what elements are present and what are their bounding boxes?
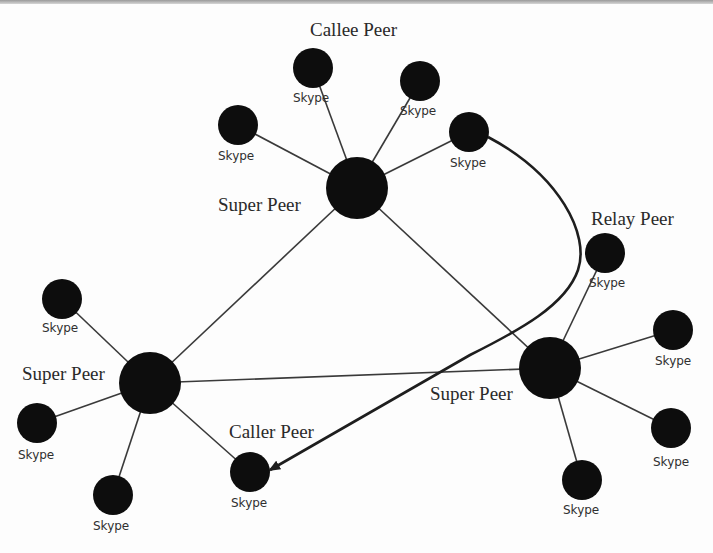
edge-super-left-to-right: [150, 368, 550, 383]
caller-peer-node: [230, 452, 270, 492]
skype-label-top-left: Skype: [218, 149, 254, 163]
super-peer-right-node: [519, 337, 581, 399]
super-peer-left-label: Super Peer: [22, 363, 106, 384]
callee-peer-label: Callee Peer: [310, 19, 398, 40]
skype-label-caller: Skype: [231, 496, 267, 510]
network-diagram: Callee Peer Relay Peer Caller Peer Super…: [0, 0, 713, 553]
super-peer-left-node: [119, 352, 181, 414]
super-peer-top-node: [326, 157, 388, 219]
super-peer-right-label: Super Peer: [430, 383, 514, 404]
skype-node-left-mid: [17, 403, 57, 443]
relay-peer-label: Relay Peer: [591, 208, 675, 229]
skype-label-callee: Skype: [293, 91, 329, 105]
skype-node-left-low: [93, 475, 133, 515]
skype-label-origin: Skype: [450, 156, 486, 170]
skype-node-right-low: [562, 460, 602, 500]
caller-peer-label: Caller Peer: [229, 421, 315, 442]
diagram-canvas: Callee Peer Relay Peer Caller Peer Super…: [0, 0, 713, 553]
skype-node-right-top: [653, 310, 693, 350]
skype-label-right-top: Skype: [655, 354, 691, 368]
skype-label-right-low: Skype: [563, 503, 599, 517]
skype-label-right-bottom: Skype: [653, 455, 689, 469]
relay-peer-node: [585, 233, 625, 273]
super-peer-top-label: Super Peer: [218, 194, 302, 215]
skype-label-relay: Skype: [589, 276, 625, 290]
skype-label-left-top: Skype: [42, 321, 78, 335]
relay-flow-arrow: [270, 137, 581, 470]
skype-node-right-bottom: [651, 408, 691, 448]
skype-label-left-mid: Skype: [18, 448, 54, 462]
edge-super-top-to-left: [150, 188, 357, 383]
skype-node-origin: [449, 112, 489, 152]
callee-peer-node: [293, 48, 333, 88]
skype-label-left-low: Skype: [93, 519, 129, 533]
edge-super-top-to-right: [357, 188, 550, 368]
skype-node-top-left: [218, 105, 258, 145]
edges: [37, 68, 673, 495]
skype-label-top-right: Skype: [400, 104, 436, 118]
skype-node-left-top: [42, 279, 82, 319]
skype-node-top-right: [400, 61, 440, 101]
